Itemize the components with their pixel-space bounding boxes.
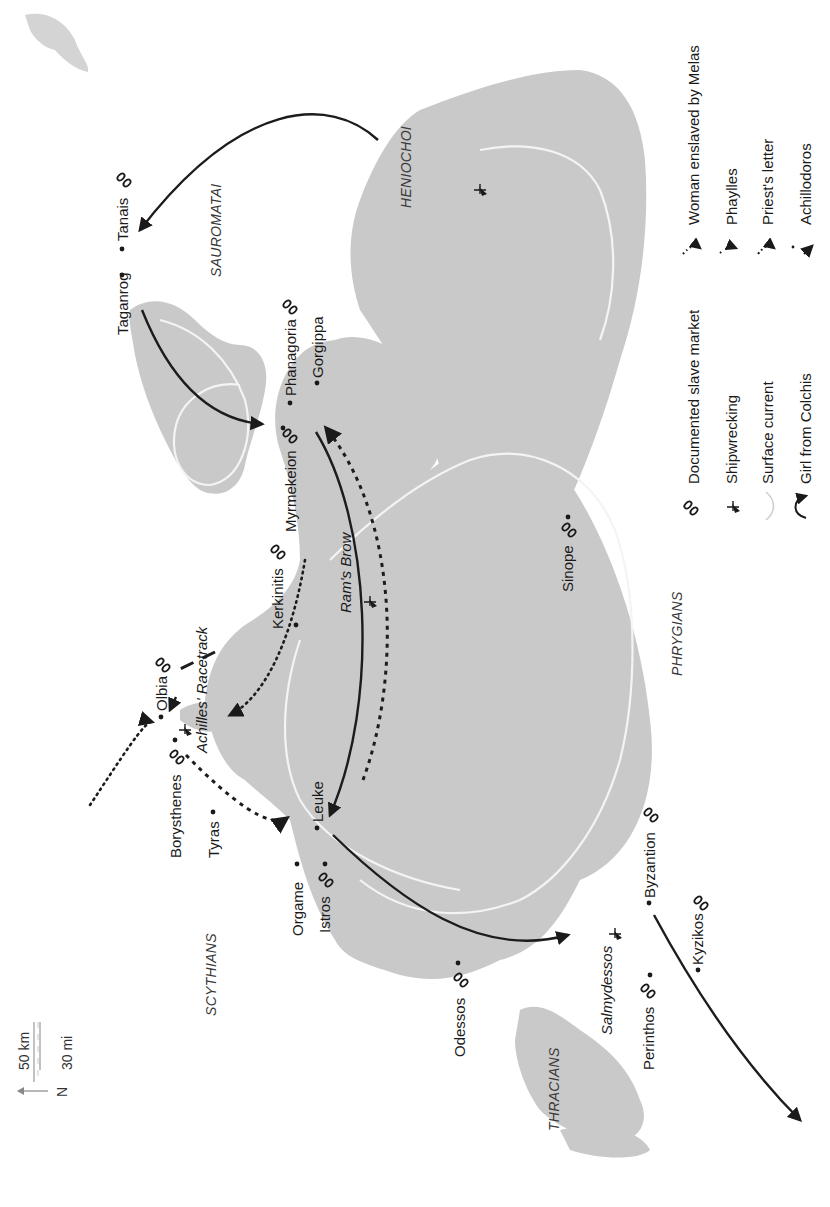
svg-text:Surface current: Surface current — [759, 381, 776, 484]
svg-text:Phaylles: Phaylles — [723, 168, 740, 225]
svg-text:Shipwrecking: Shipwrecking — [723, 395, 740, 484]
place-label-myrmekeion: Myrmekeion — [282, 450, 299, 532]
place-label-kyzikos: Kyzikos — [689, 913, 706, 965]
legend-item-woman-enslaved: Woman enslaved by Melas — [683, 45, 702, 254]
place-label-istros: Istros — [316, 896, 333, 933]
place-label-phanagoria: Phanagoria — [282, 319, 299, 396]
people-label-heniochoi: HENIOCHOI — [398, 126, 414, 208]
svg-text:Girl from Colchis: Girl from Colchis — [797, 373, 814, 484]
scale-mi-label: 30 mi — [59, 1036, 75, 1070]
svg-text:Achillodoros: Achillodoros — [797, 143, 814, 225]
place-label-kerkinitis: Kerkinitis — [269, 568, 286, 629]
place-label-orgame: Orgame — [289, 882, 306, 936]
place-label-byzantion: Byzantion — [641, 832, 658, 898]
place-label-achilles-racetrack: Achilles' Racetrack — [193, 625, 210, 754]
black-sea-map: Tanais Taganrog Phanagoria Gorgippa Myrm… — [0, 0, 830, 1207]
people-label-phrygians: PHRYGIANS — [669, 591, 685, 676]
place-label-perinthos: Perinthos — [640, 1007, 657, 1070]
people-label-sauromatai: SAUROMATAI — [208, 184, 224, 278]
place-label-rams-brow: Ram's Brow — [337, 531, 354, 613]
place-label-taganrog: Taganrog — [114, 272, 131, 335]
place-label-salmydessos: Salmydessos — [598, 945, 615, 1035]
scale-km-label: 50 km — [16, 1032, 32, 1070]
people-label-scythians: SCYTHIANS — [203, 933, 219, 1016]
place-label-gorgippa: Gorgippa — [309, 316, 326, 378]
place-label-borysthenes: Borysthenes — [167, 775, 184, 858]
place-label-odessos: Odessos — [451, 998, 468, 1057]
place-label-olbia: Olbia — [153, 675, 170, 711]
place-label-tanais: Tanais — [114, 198, 131, 241]
svg-text:Woman enslaved by Melas: Woman enslaved by Melas — [685, 45, 702, 225]
place-label-tyras: Tyras — [205, 821, 222, 858]
svg-text:Priest's letter: Priest's letter — [759, 139, 776, 225]
svg-text:Documented slave market: Documented slave market — [685, 309, 702, 484]
place-label-sinope: Sinope — [559, 545, 576, 592]
place-label-leuke: Leuke — [309, 781, 326, 822]
north-label: N — [54, 1087, 70, 1097]
legend-item-slave-market: Documented slave market — [683, 309, 702, 516]
people-label-thracians: THRACIANS — [546, 1047, 562, 1131]
